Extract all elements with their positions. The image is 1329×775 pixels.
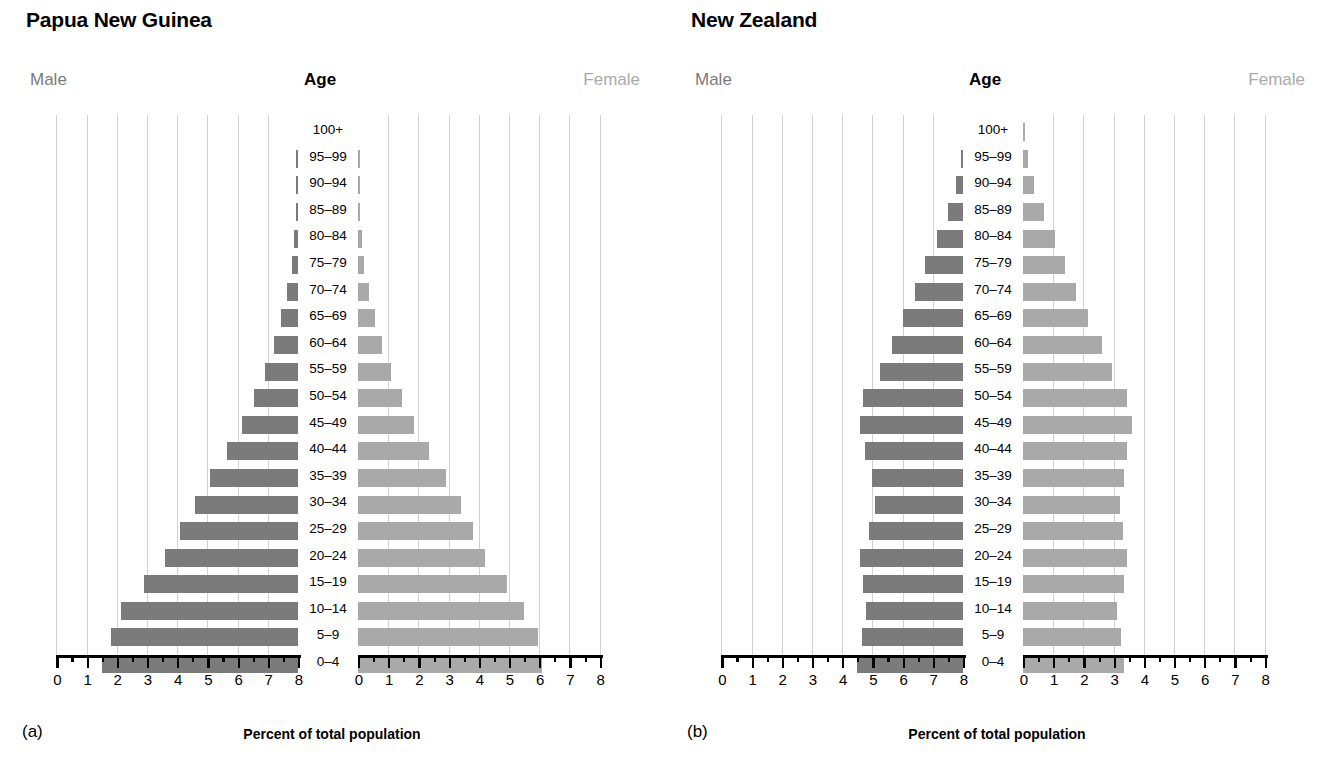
panel-title: Papua New Guinea (26, 8, 212, 32)
axis-tick-label: 2 (770, 671, 796, 688)
bar-male (875, 496, 963, 514)
chart-panel-papua-new-guinea: Papua New Guinea Male Age Female 100+95–… (0, 0, 664, 775)
bar-female (1023, 602, 1117, 620)
pyramid-row: 20–24 (0, 545, 664, 572)
pyramid-row: 95–99 (0, 146, 664, 173)
bar-female (1023, 283, 1076, 301)
bar-male (860, 549, 963, 567)
age-group-label: 50–54 (963, 388, 1023, 403)
axis-tick-minor (1189, 655, 1191, 662)
pyramid-row: 70–74 (0, 279, 664, 306)
age-group-label: 40–44 (963, 441, 1023, 456)
age-group-label: 75–79 (963, 255, 1023, 270)
axis-tick-minor (736, 655, 738, 662)
chart-panel-new-zealand: New Zealand Male Age Female 100+95–9990–… (665, 0, 1329, 775)
axis-tick-minor (102, 655, 104, 662)
age-group-label: 70–74 (298, 282, 358, 297)
axis-tick-label: 1 (1041, 671, 1067, 688)
axis-tick-minor (887, 655, 889, 662)
axis-tick-minor (222, 655, 224, 662)
axis-tick-minor (948, 655, 950, 662)
legend-label-female: Female (583, 70, 640, 90)
age-group-label: 65–69 (963, 308, 1023, 323)
pyramid-row: 70–74 (665, 279, 1329, 306)
bar-female (358, 442, 429, 460)
age-group-label: 30–34 (963, 494, 1023, 509)
bar-female (358, 628, 538, 646)
pyramid-row: 90–94 (0, 172, 664, 199)
bar-male (925, 256, 963, 274)
bar-female (1023, 575, 1124, 593)
axis-tick-major (903, 655, 905, 668)
pyramid-row: 95–99 (665, 146, 1329, 173)
bar-female (358, 549, 485, 567)
panel-title: New Zealand (691, 8, 817, 32)
bar-female (358, 575, 507, 593)
age-group-label: 0–4 (963, 654, 1023, 669)
axis-tick-major (842, 655, 844, 668)
pyramid-row: 25–29 (0, 518, 664, 545)
bar-female (1023, 150, 1028, 168)
axis-tick-major (1023, 655, 1025, 668)
axis-tick-label: 6 (226, 671, 252, 688)
axis-tick-minor (283, 655, 285, 662)
bar-male (111, 628, 298, 646)
bar-female (358, 496, 461, 514)
bar-male (863, 575, 963, 593)
age-group-label: 60–64 (298, 335, 358, 350)
axis-tick-major (1204, 655, 1206, 668)
bar-male (265, 363, 298, 381)
age-group-label: 5–9 (963, 627, 1023, 642)
axis-tick-label: 1 (376, 671, 402, 688)
bar-male (860, 416, 963, 434)
axis-tick-minor (494, 655, 496, 662)
axis-tick-major (963, 655, 965, 668)
bar-female (1023, 469, 1124, 487)
bar-male (872, 469, 963, 487)
bar-female (358, 283, 369, 301)
axis-tick-minor (524, 655, 526, 662)
bar-female (1023, 442, 1127, 460)
pyramid-row: 50–54 (665, 385, 1329, 412)
axis-tick-minor (1159, 655, 1161, 662)
axis-tick-major (207, 655, 209, 668)
axis-tick-label: 0 (44, 671, 70, 688)
age-group-label: 35–39 (963, 468, 1023, 483)
axis-tick-major (782, 655, 784, 668)
plot-area: 100+95–9990–9485–8980–8475–7970–7465–696… (0, 115, 664, 660)
panel-letter: (a) (22, 722, 43, 742)
bar-female (1023, 628, 1121, 646)
axis-tick-major (1053, 655, 1055, 668)
axis-tick-major (1265, 655, 1267, 668)
bar-female (358, 522, 473, 540)
bar-male (180, 522, 298, 540)
bar-male (862, 628, 963, 646)
pyramid-row: 60–64 (0, 332, 664, 359)
bar-female (1023, 123, 1025, 141)
axis-tick-major (569, 655, 571, 668)
bar-male (866, 602, 963, 620)
axis-tick-label: 5 (1162, 671, 1188, 688)
pyramid-row: 40–44 (0, 438, 664, 465)
pyramid-row: 15–19 (665, 571, 1329, 598)
axis-tick-label: 2 (105, 671, 131, 688)
age-group-label: 55–59 (963, 361, 1023, 376)
pyramid-row: 90–94 (665, 172, 1329, 199)
axis-tick-label: 0 (346, 671, 372, 688)
axis-tick-minor (767, 655, 769, 662)
legend-label-male: Male (695, 70, 732, 90)
bar-male (865, 442, 963, 460)
legend-label-male: Male (30, 70, 67, 90)
axis-tick-label: 0 (709, 671, 735, 688)
age-group-label: 20–24 (298, 548, 358, 563)
age-group-label: 70–74 (963, 282, 1023, 297)
pyramid-row: 100+ (0, 119, 664, 146)
axis-tick-label: 3 (437, 671, 463, 688)
age-group-label: 90–94 (963, 175, 1023, 190)
axis-tick-label: 7 (557, 671, 583, 688)
pyramid-row: 75–79 (0, 252, 664, 279)
bar-female (1023, 496, 1120, 514)
pyramid-row: 100+ (665, 119, 1329, 146)
age-group-label: 40–44 (298, 441, 358, 456)
bar-male (274, 336, 298, 354)
